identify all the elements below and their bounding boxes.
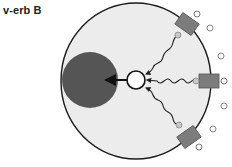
free-ligand: [218, 53, 224, 59]
receptor-right: [199, 74, 219, 88]
free-ligand: [221, 103, 227, 109]
docking-site-top-inner: [175, 32, 181, 38]
docked-ligand-right-outer: [221, 78, 227, 84]
signal-molecule: [127, 71, 145, 89]
free-ligand: [210, 126, 216, 132]
docked-ligand-top-outer: [194, 11, 200, 17]
docking-site-bottom-inner: [176, 122, 182, 128]
free-ligand: [207, 25, 213, 31]
docked-ligand-bottom-outer: [196, 144, 202, 150]
docking-site-right-inner: [193, 78, 199, 84]
cell-signaling-diagram: [0, 0, 232, 167]
